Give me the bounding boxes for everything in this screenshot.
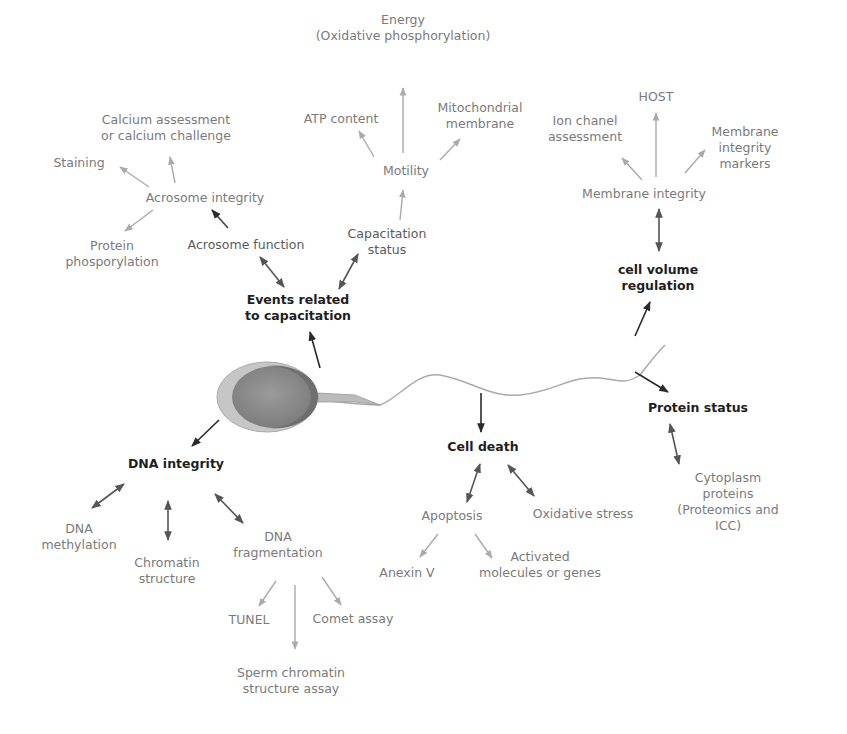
node-acrosome-integrity: Acrosome integrity [146, 190, 265, 206]
node-anexin-v: Anexin V [379, 565, 434, 581]
diagram-canvas [0, 0, 847, 734]
node-cell-volume-regulation: cell volume regulation [618, 262, 698, 294]
node-acrosome-function: Acrosome function [188, 237, 305, 253]
arrow-to-dna-integrity [192, 420, 219, 446]
node-dna-integrity: DNA integrity [128, 456, 224, 472]
node-apoptosis: Apoptosis [421, 508, 482, 524]
node-comet-assay: Comet assay [313, 611, 394, 627]
node-host: HOST [639, 89, 674, 105]
arrow-to-cell-volume [635, 302, 650, 336]
node-membrane-integrity: Membrane integrity [582, 186, 706, 202]
node-activated-molecules: Activated molecules or genes [479, 549, 601, 581]
node-dna-fragmentation: DNA fragmentation [233, 529, 322, 561]
node-energy: Energy (Oxidative phosphorylation) [316, 12, 491, 44]
node-staining: Staining [53, 155, 104, 171]
node-oxidative-stress: Oxidative stress [533, 506, 634, 522]
double-arrows [92, 209, 679, 540]
node-motility: Motility [383, 163, 429, 179]
sperm-illustration [217, 345, 665, 432]
node-sperm-chromatin-assay: Sperm chromatin structure assay [237, 665, 345, 697]
node-chromatin-structure: Chromatin structure [134, 555, 199, 587]
node-mitochondrial-membrane: Mitochondrial membrane [438, 100, 523, 132]
node-tunel: TUNEL [229, 612, 270, 628]
node-ion-channel: Ion chanel assessment [548, 113, 622, 145]
node-cytoplasm-proteins: Cytoplasm proteins (Proteomics and ICC) [669, 470, 788, 534]
node-atp-content: ATP content [304, 111, 379, 127]
node-events-capacitation: Events related to capacitation [245, 292, 351, 324]
node-protein-phosporylation: Protein phosporylation [65, 238, 158, 270]
node-capacitation-status: Capacitation status [348, 226, 427, 258]
node-dna-methylation: DNA methylation [41, 521, 116, 553]
node-membrane-markers: Membrane integrity markers [694, 124, 796, 172]
arrow-to-events [310, 332, 320, 368]
arrow-to-protein-status [635, 372, 668, 392]
node-protein-status: Protein status [648, 400, 748, 416]
node-calcium-assessment: Calcium assessment or calcium challenge [101, 112, 231, 144]
node-cell-death: Cell death [447, 439, 518, 455]
